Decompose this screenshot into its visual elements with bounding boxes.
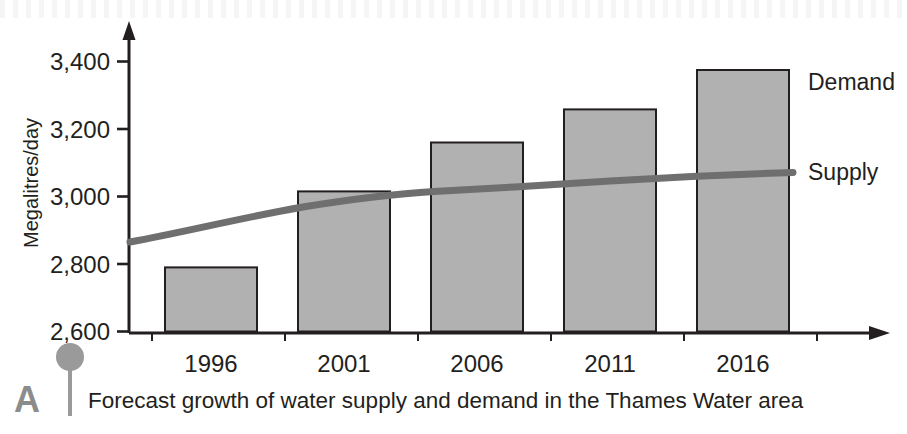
y-tick-label-3400: 3,400 bbox=[50, 48, 110, 75]
y-tick-label-3200: 3,200 bbox=[50, 116, 110, 143]
chart-canvas: 3,400 3,200 3,000 2,800 2,600 Megalitres… bbox=[0, 0, 907, 434]
y-tick-label-3000: 3,000 bbox=[50, 183, 110, 210]
demand-series-label: Demand bbox=[808, 69, 895, 95]
x-axis-arrowhead bbox=[869, 326, 890, 340]
x-axis-tick-labels: 1996 2001 2006 2011 2016 bbox=[184, 350, 769, 377]
y-axis-tick-labels: 3,400 3,200 3,000 2,800 2,600 bbox=[50, 48, 110, 345]
x-tick-label-2011: 2011 bbox=[584, 350, 636, 377]
bar-1996 bbox=[165, 267, 257, 331]
panel-pin-icon bbox=[56, 343, 84, 416]
y-axis bbox=[123, 21, 136, 333]
x-tick-label-2001: 2001 bbox=[317, 350, 370, 377]
panel-letter: A bbox=[14, 379, 40, 420]
bar-2001 bbox=[298, 191, 390, 331]
x-tick-label-1996: 1996 bbox=[184, 350, 237, 377]
figure-caption: Forecast growth of water supply and dema… bbox=[88, 388, 804, 413]
pin-head-icon bbox=[56, 343, 84, 371]
y-tick-label-2800: 2,800 bbox=[50, 251, 110, 278]
y-tick-label-2600: 2,600 bbox=[50, 318, 110, 345]
bar-2011 bbox=[564, 109, 656, 331]
demand-bars bbox=[165, 70, 789, 332]
figure-root: 3,400 3,200 3,000 2,800 2,600 Megalitres… bbox=[0, 0, 907, 434]
x-tick-label-2016: 2016 bbox=[716, 350, 769, 377]
y-axis-ticks bbox=[117, 62, 129, 332]
y-axis-arrowhead bbox=[123, 21, 136, 40]
x-tick-label-2006: 2006 bbox=[450, 350, 503, 377]
y-axis-title: Megalitres/day bbox=[20, 118, 42, 248]
supply-series-label: Supply bbox=[808, 159, 879, 185]
bar-2016 bbox=[697, 70, 789, 332]
bar-2006 bbox=[431, 143, 523, 332]
